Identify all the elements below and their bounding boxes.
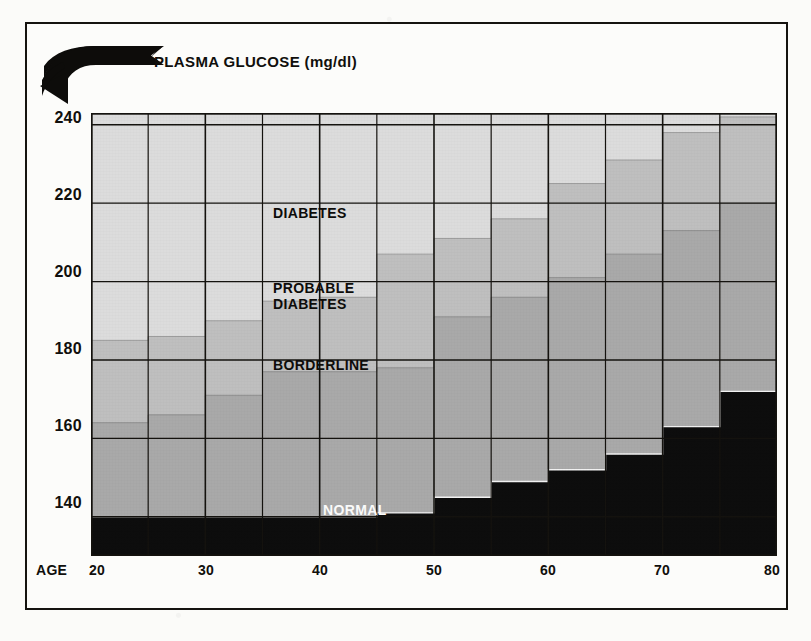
title-callout: PLASMA GLUCOSE (mg/dl) (38, 44, 458, 106)
band-label-borderline: BORDERLINE (273, 358, 369, 374)
y-tick-220: 220 (54, 186, 82, 204)
y-tick-240: 240 (54, 109, 82, 127)
figure-page: PLASMA GLUCOSE (mg/dl) 240 220 200 180 1… (0, 0, 811, 641)
x-tick-30: 30 (198, 562, 214, 578)
band-label-probable-diabetes: PROBABLE DIABETES (273, 281, 354, 312)
x-axis-title: AGE (36, 562, 67, 578)
y-tick-180: 180 (54, 340, 82, 358)
stacked-step-band-chart (91, 113, 777, 556)
x-tick-70: 70 (654, 562, 670, 578)
x-tick-50: 50 (426, 562, 442, 578)
y-axis-ticks: 240 220 200 180 160 140 (34, 0, 82, 641)
band-label-normal: NORMAL (323, 503, 387, 519)
chart-plot-area: DIABETES PROBABLE DIABETES BORDERLINE NO… (91, 113, 777, 556)
y-tick-140: 140 (54, 494, 82, 512)
band-label-diabetes: DIABETES (273, 206, 347, 222)
y-tick-160: 160 (54, 417, 82, 435)
x-tick-60: 60 (540, 562, 556, 578)
page-title: PLASMA GLUCOSE (mg/dl) (154, 53, 357, 70)
x-tick-80: 80 (764, 562, 780, 578)
y-tick-200: 200 (54, 263, 82, 281)
x-tick-20: 20 (89, 562, 105, 578)
x-tick-40: 40 (312, 562, 328, 578)
